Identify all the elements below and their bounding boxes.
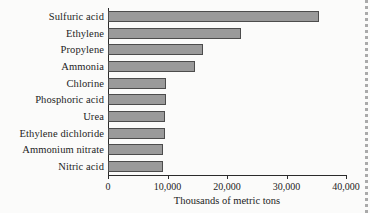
x-tick-mark <box>108 175 109 179</box>
category-label: Phosphoric acid <box>0 94 104 105</box>
category-label: Chlorine <box>0 78 104 89</box>
category-label: Urea <box>0 111 104 122</box>
bar <box>108 61 195 72</box>
bar <box>108 78 166 89</box>
category-label: Propylene <box>0 44 104 55</box>
bar <box>108 111 165 122</box>
bar <box>108 161 163 172</box>
x-tick-mark <box>346 175 347 179</box>
perforated-edge-artifact <box>365 0 368 213</box>
x-tick-mark <box>287 175 288 179</box>
category-label-group: Sulfuric acid Ethylene Propylene Ammonia… <box>0 8 104 175</box>
x-tick-mark <box>227 175 228 179</box>
category-label: Ethylene <box>0 28 104 39</box>
category-label: Sulfuric acid <box>0 11 104 22</box>
category-label: Nitric acid <box>0 161 104 172</box>
x-tick-label: 0 <box>106 181 111 192</box>
plot-area <box>108 8 346 175</box>
bar <box>108 144 163 155</box>
x-tick-label: 20,000 <box>213 181 241 192</box>
bar <box>108 128 165 139</box>
bar <box>108 94 166 105</box>
x-tick-label: 40,000 <box>332 181 360 192</box>
bar-chart: Sulfuric acid Ethylene Propylene Ammonia… <box>0 0 370 213</box>
category-label: Ammonium nitrate <box>0 144 104 155</box>
bar <box>108 11 319 22</box>
category-label: Ammonia <box>0 61 104 72</box>
x-tick-label: 10,000 <box>154 181 182 192</box>
category-label: Ethylene dichloride <box>0 128 104 139</box>
bar <box>108 44 203 55</box>
x-tick-label: 30,000 <box>273 181 301 192</box>
bar <box>108 28 241 39</box>
x-tick-mark <box>168 175 169 179</box>
x-axis-title: Thousands of metric tons <box>108 195 346 206</box>
